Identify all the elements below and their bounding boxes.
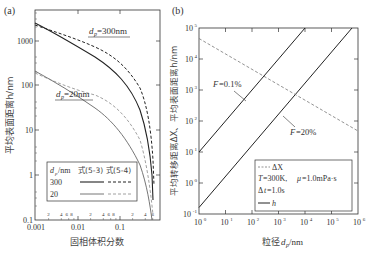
svg-text:2: 2	[47, 212, 50, 217]
annotation-f-20: F =20%	[283, 116, 316, 137]
panel-a-x-minor-labels: 2 4 6 8 2 4 6 8 2 4 6	[47, 212, 154, 217]
svg-text:2: 2	[257, 217, 260, 222]
svg-text:4: 4	[60, 212, 63, 217]
svg-text:100: 100	[21, 81, 33, 90]
svg-text:1: 1	[230, 217, 233, 222]
svg-text:10: 10	[185, 24, 193, 33]
svg-text:F: F	[212, 79, 219, 89]
svg-text:μ: μ	[296, 174, 301, 183]
svg-text:6: 6	[363, 217, 366, 222]
svg-text:3: 3	[195, 85, 198, 90]
panel-a-y-ticks	[35, 41, 160, 175]
svg-text:=1.0s: =1.0s	[267, 186, 285, 195]
svg-text:10: 10	[247, 218, 255, 227]
svg-text:10: 10	[25, 126, 33, 135]
panel-b-x-axis-label: 粒径 d p /nm	[262, 236, 303, 248]
svg-text:/nm: /nm	[289, 237, 303, 247]
svg-text:10: 10	[183, 210, 191, 219]
svg-text:式(5-3): 式(5-3)	[78, 165, 103, 175]
svg-text:Δ: Δ	[258, 186, 263, 195]
svg-text:0.001: 0.001	[27, 223, 45, 232]
annotation-f-01: F =0.1%	[212, 79, 246, 101]
svg-text:ΔX: ΔX	[272, 163, 283, 172]
svg-text:10: 10	[194, 218, 202, 227]
svg-text:10: 10	[353, 218, 361, 227]
curve-300-eq54	[35, 25, 154, 185]
annotation-dp-20: d p =20nm	[55, 89, 93, 100]
svg-text:10: 10	[185, 86, 193, 95]
svg-text:2: 2	[195, 116, 198, 121]
svg-text:4: 4	[195, 54, 198, 59]
svg-text:10: 10	[185, 55, 193, 64]
svg-text:10: 10	[300, 218, 308, 227]
svg-text:20: 20	[50, 190, 58, 199]
panel-a-label: (a)	[4, 5, 15, 17]
panel-b-y-axis-label: 平均转移距离ΔX、平均表面距离h/nm	[169, 46, 179, 197]
panel-a-x-axis-label: 固相体积分数	[70, 236, 124, 247]
svg-text:F: F	[289, 127, 296, 137]
annotation-dp-300: d p =300nm	[88, 26, 130, 37]
panel-a-y-axis-label: 平均表面距离h/nm	[4, 76, 15, 153]
svg-text:10: 10	[221, 218, 229, 227]
svg-text:300: 300	[50, 178, 62, 187]
svg-text:/nm: /nm	[58, 166, 71, 175]
svg-text:6: 6	[65, 212, 68, 217]
panel-b-y-tick-labels: 105 104 103 102 101 100 10-1	[183, 23, 198, 219]
svg-text:1: 1	[195, 147, 198, 152]
svg-text:式(5-4): 式(5-4)	[106, 165, 131, 175]
panel-a-y-tick-labels: 1000 100 10 1 0.1	[17, 37, 33, 225]
svg-text:10: 10	[185, 117, 193, 126]
panel-b-label: (b)	[172, 5, 184, 17]
svg-text:1: 1	[29, 171, 33, 180]
svg-text:0.01: 0.01	[71, 223, 85, 232]
svg-text:5: 5	[195, 23, 198, 28]
svg-text:2: 2	[89, 212, 92, 217]
svg-text:3: 3	[283, 217, 286, 222]
svg-text:4: 4	[144, 212, 147, 217]
svg-text:=300K,: =300K,	[263, 174, 287, 183]
panel-b-x-tick-labels: 100 101 102 103 104 105 106	[194, 217, 366, 227]
svg-text:5: 5	[336, 217, 339, 222]
svg-text:-1: -1	[193, 209, 198, 214]
svg-text:4: 4	[102, 212, 105, 217]
panel-a-x-tick-labels: 0.001 0.01 0.1	[27, 223, 125, 232]
svg-text:=300nm: =300nm	[97, 26, 127, 36]
svg-text:8: 8	[112, 212, 115, 217]
svg-text:h: h	[272, 199, 276, 208]
svg-text:1000: 1000	[17, 37, 33, 46]
panel-a-legend: d p /nm 式(5-3) 式(5-4) 300 20	[47, 162, 137, 201]
svg-text:0: 0	[195, 178, 198, 183]
figure: (a) 1000 100 10 1 0.1 2 4 6 8 2 4	[0, 0, 379, 257]
svg-text:=1.0mPa·s: =1.0mPa·s	[302, 174, 337, 183]
svg-text:10: 10	[327, 218, 335, 227]
svg-text:0: 0	[204, 217, 207, 222]
svg-text:0.1: 0.1	[115, 223, 125, 232]
svg-text:2: 2	[131, 212, 134, 217]
svg-text:=20nm: =20nm	[64, 89, 90, 99]
svg-text:6: 6	[107, 212, 110, 217]
svg-text:10: 10	[274, 218, 282, 227]
svg-text:8: 8	[70, 212, 73, 217]
svg-text:4: 4	[310, 217, 313, 222]
panel-b-legend: ΔX T =300K, μ =1.0mPa·s Δ t =1.0s h	[255, 160, 352, 211]
svg-text:10: 10	[185, 148, 193, 157]
svg-text:粒径: 粒径	[262, 236, 280, 247]
svg-text:=20%: =20%	[296, 127, 316, 137]
svg-text:=0.1%: =0.1%	[219, 79, 242, 89]
svg-text:10: 10	[185, 179, 193, 188]
